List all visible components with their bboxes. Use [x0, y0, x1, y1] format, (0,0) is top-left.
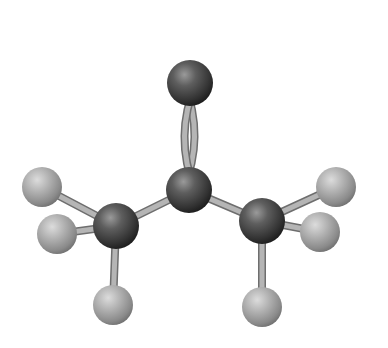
hydrogen-atom-h3a	[316, 167, 356, 207]
hydrogen-atom-h3c	[242, 287, 282, 327]
atom-c3	[239, 198, 285, 244]
hydrogen-atom-h1b	[37, 214, 77, 254]
atom-c1	[93, 203, 139, 249]
atom-o	[167, 60, 213, 106]
atoms-layer	[22, 60, 356, 327]
hydrogen-atom-h3b	[300, 212, 340, 252]
hydrogen-atom-h1a	[22, 167, 62, 207]
hydrogen-atom-h1c	[93, 285, 133, 325]
atom-c2	[166, 167, 212, 213]
molecule-model	[0, 0, 388, 348]
